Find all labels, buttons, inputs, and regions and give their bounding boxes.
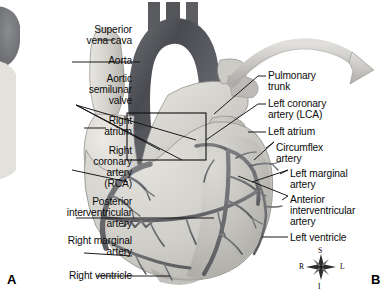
compass-label-inferior: I	[318, 282, 321, 291]
compass-label-superior: S	[318, 246, 322, 255]
label-pulmonary-trunk-line2: trunk	[268, 81, 290, 92]
label-anterior-interventricular-artery-line2: interventricular	[290, 205, 355, 216]
label-right-coronary-artery-line4: (RCA)	[26, 178, 132, 189]
label-right-ventricle: Right ventricle	[26, 270, 132, 281]
edge-vessel-fragment	[0, 6, 20, 180]
label-superior-vena-cava: Superior	[36, 24, 132, 35]
label-aortic-semilunar-valve: Aortic	[26, 73, 132, 84]
label-left-marginal-artery-line2: artery	[290, 179, 315, 190]
label-posterior-interventricular-artery-line2: interventricular	[10, 207, 132, 218]
label-aorta: Aorta	[36, 55, 132, 66]
label-circumflex-artery-line2: artery	[276, 153, 301, 164]
label-left-coronary-artery-line2: artery (LCA)	[268, 109, 322, 120]
label-right-coronary-artery-line2: coronary	[26, 156, 132, 167]
label-pulmonary-trunk: Pulmonary	[268, 70, 316, 81]
label-right-atrium: Right	[36, 115, 132, 126]
label-right-atrium-line2: atrium	[36, 126, 132, 137]
label-aortic-semilunar-valve-line3: valve	[26, 95, 132, 106]
label-aortic-semilunar-valve-line2: semilunar	[26, 84, 132, 95]
label-posterior-interventricular-artery-line3: artery	[10, 218, 132, 229]
label-right-coronary-artery-line3: artery	[26, 167, 132, 178]
label-left-atrium: Left atrium	[268, 126, 315, 137]
compass-label-left: L	[340, 262, 345, 271]
label-anterior-interventricular-artery-line3: artery	[290, 216, 315, 227]
panel-marker-a: A	[7, 272, 16, 287]
compass-label-right: R	[299, 262, 304, 271]
label-circumflex-artery: Circumflex	[276, 142, 323, 153]
label-right-marginal-artery-line2: artery	[26, 246, 132, 257]
label-right-coronary-artery: Right	[26, 145, 132, 156]
label-posterior-interventricular-artery: Posterior	[10, 196, 132, 207]
panel-marker-b: B	[371, 272, 380, 287]
label-anterior-interventricular-artery: Anterior	[290, 194, 325, 205]
compass-rose	[306, 254, 336, 280]
label-left-ventricle: Left ventricle	[290, 232, 346, 243]
label-left-marginal-artery: Left marginal	[290, 168, 348, 179]
label-right-marginal-artery: Right marginal	[26, 235, 132, 246]
label-superior-vena-cava-line2: vena cava	[36, 35, 132, 46]
label-left-coronary-artery: Left coronary	[268, 98, 326, 109]
